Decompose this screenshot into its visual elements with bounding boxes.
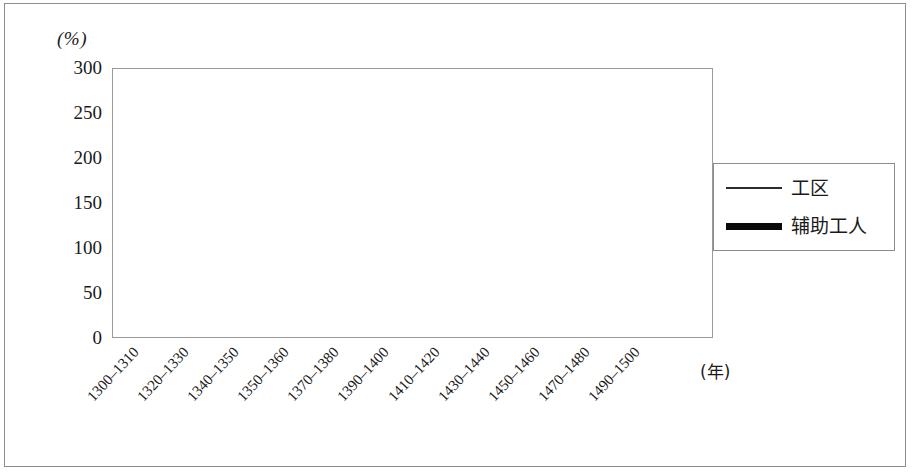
y-tick-label: 0 [42,327,102,349]
x-tick-label: 1450–1460 [485,344,543,405]
legend-item-0: 工区 [726,169,894,207]
x-tick-label: 1430–1440 [435,344,493,405]
x-tick-label: 1390–1400 [334,344,392,405]
legend-swatch-thick-line [726,223,782,230]
x-tick-label: 1370–1380 [284,344,342,405]
legend-swatch-thin-line [726,187,782,189]
x-tick-label: 1320–1330 [134,344,192,405]
y-tick-label: 300 [42,57,102,79]
x-axis-tick-labels: 1300–13101320–13301340–13501350–13601370… [112,344,713,454]
x-tick-label: 1340–1350 [184,344,242,405]
plot-area [112,68,713,338]
y-tick-label: 150 [42,192,102,214]
chart-legend: 工区 辅助工人 [713,163,895,251]
y-axis-unit-label: (%) [57,28,87,50]
legend-item-1: 辅助工人 [726,207,894,245]
y-tick-label: 200 [42,147,102,169]
x-tick-label: 1410–1420 [384,344,442,405]
chart-figure: (%) 050100150200250300 1300–13101320–133… [0,0,914,474]
y-axis-tick-labels: 050100150200250300 [42,68,102,338]
x-axis-unit-label: (年) [700,358,730,383]
x-tick-label: 1350–1360 [234,344,292,405]
y-tick-label: 100 [42,237,102,259]
y-tick-label: 50 [42,282,102,304]
plot-frame [112,68,713,338]
y-tick-label: 250 [42,102,102,124]
legend-label-1: 辅助工人 [791,217,867,236]
legend-label-0: 工区 [791,179,829,198]
x-tick-label: 1470–1480 [535,344,593,405]
x-tick-label: 1490–1500 [585,344,643,405]
